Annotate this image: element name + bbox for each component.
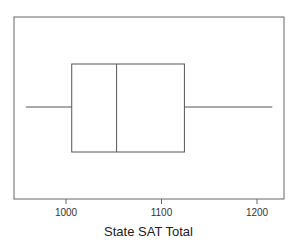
box-element: [26, 64, 272, 152]
box-plot: 100011001200: [0, 0, 297, 252]
x-tick-label: 1000: [55, 207, 78, 218]
x-tick-label: 1100: [151, 207, 173, 218]
plot-frame: [14, 17, 284, 199]
x-axis: 100011001200: [55, 199, 269, 218]
iqr-box: [72, 64, 185, 152]
x-tick-label: 1200: [246, 207, 269, 218]
x-axis-label: State SAT Total: [0, 224, 297, 239]
